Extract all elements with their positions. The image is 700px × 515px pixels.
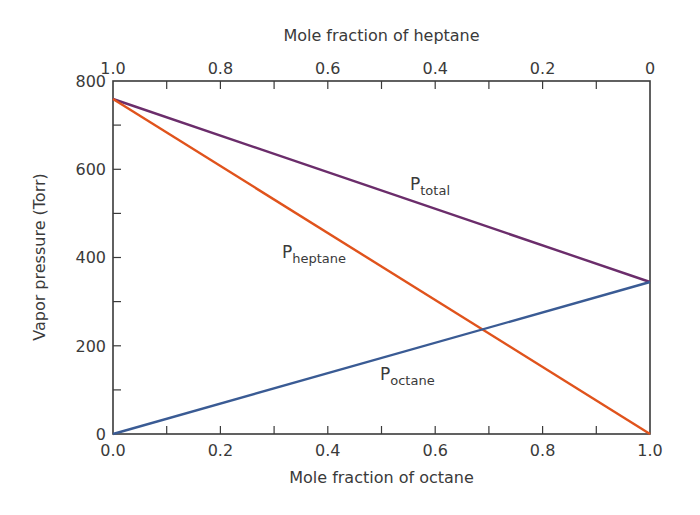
x-tick-label: 0.2: [208, 441, 233, 460]
series-line-p-total: [113, 99, 650, 282]
series-line-p-octane: [113, 282, 650, 434]
bottom-ticks: [167, 426, 597, 434]
x2-tick-label: 0.2: [530, 59, 555, 78]
left-ticks: [113, 125, 121, 390]
x-tick-label: 0.8: [530, 441, 555, 460]
series-label-p-octane: Poctane: [380, 364, 435, 388]
y-tick-label: 200: [75, 337, 106, 356]
y-axis-title: Vapor pressure (Torr): [30, 173, 49, 341]
x2-tick-label: 0: [645, 59, 655, 78]
x-tick-label: 0.4: [315, 441, 340, 460]
x2-tick-label: 0.4: [422, 59, 447, 78]
x2-tick-label: 0.6: [315, 59, 340, 78]
y-tick-label: 400: [75, 248, 106, 267]
x2-tick-label: 1.0: [100, 59, 125, 78]
x2-tick-labels: 1.0 0.8 0.6 0.4 0.2 0: [100, 59, 655, 78]
x-tick-label: 1.0: [637, 441, 662, 460]
series-label-p-heptane: Pheptane: [282, 242, 346, 266]
x2-tick-label: 0.8: [208, 59, 233, 78]
y-tick-labels: 800 600 400 200 0: [75, 72, 106, 444]
top-ticks: [167, 81, 597, 89]
x-tick-label: 0.6: [422, 441, 447, 460]
x-tick-label: 0.0: [100, 441, 125, 460]
series-label-p-total: Ptotal: [410, 174, 450, 198]
vapor-pressure-chart: 800 600 400 200 0 0.0 0.2 0.4 0.6 0.8 1.…: [0, 0, 700, 515]
x2-axis-title: Mole fraction of heptane: [283, 26, 479, 45]
y-tick-label: 600: [75, 160, 106, 179]
x-tick-labels: 0.0 0.2 0.4 0.6 0.8 1.0: [100, 441, 662, 460]
x-axis-title: Mole fraction of octane: [289, 468, 474, 487]
